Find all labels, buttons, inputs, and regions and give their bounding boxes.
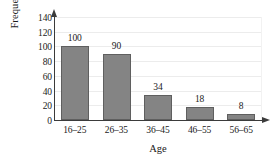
bar[interactable] (61, 46, 89, 120)
x-axis-title: Age (54, 142, 262, 155)
y-tick-label: 80 (26, 58, 52, 68)
bar-group: 18 (179, 17, 221, 120)
bar[interactable] (186, 107, 214, 120)
y-axis-title: Frequency (8, 0, 22, 44)
y-tick-label: 120 (26, 29, 52, 39)
bar[interactable] (227, 114, 255, 120)
y-tick-label: 60 (26, 73, 52, 83)
bar-group: 100 (54, 17, 96, 120)
y-tick-label: 20 (26, 102, 52, 112)
x-tick-label: 56–65 (220, 124, 262, 136)
bar-group: 8 (220, 17, 262, 120)
bar[interactable] (103, 54, 131, 120)
bar-chart: Frequency 140 120 100 80 60 40 20 0 100 … (0, 0, 279, 164)
y-tick-label: 100 (26, 43, 52, 53)
y-axis-arrow-icon (51, 9, 57, 17)
x-tick-label: 16–25 (54, 124, 96, 136)
bar-value-label: 34 (137, 82, 179, 92)
bar[interactable] (144, 95, 172, 120)
y-tick-label: 140 (26, 14, 52, 24)
bar-group: 34 (137, 17, 179, 120)
y-axis-tick-labels: 140 120 100 80 60 40 20 0 (26, 0, 52, 164)
x-axis-arrow-icon (262, 117, 270, 123)
y-tick-label: 40 (26, 88, 52, 98)
bar-value-label: 100 (54, 33, 96, 43)
bar-group: 90 (96, 17, 138, 120)
x-tick-label: 36–45 (137, 124, 179, 136)
x-axis-tick-labels: 16–25 26–35 36–45 46–55 56–65 (54, 124, 262, 138)
bars-layer: 100 90 34 18 8 (54, 17, 262, 120)
x-tick-label: 26–35 (96, 124, 138, 136)
x-axis-line (54, 120, 263, 121)
y-tick-label: 0 (26, 117, 52, 127)
x-tick-label: 46–55 (179, 124, 221, 136)
bar-value-label: 8 (220, 101, 262, 111)
bar-value-label: 18 (179, 94, 221, 104)
bar-value-label: 90 (96, 41, 138, 51)
